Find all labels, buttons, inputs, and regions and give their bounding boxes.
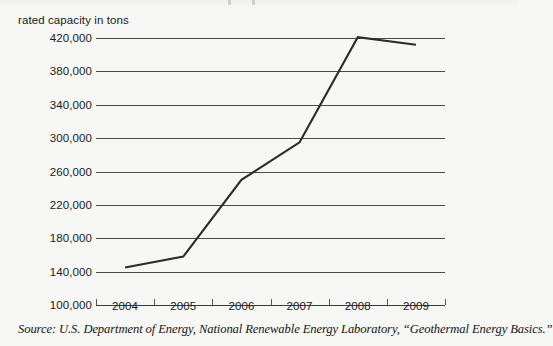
data-series-line (0, 0, 517, 318)
source-caption: Source: U.S. Department of Energy, Natio… (18, 322, 553, 337)
plot-area: 420,000380,000340,000300,000260,000220,0… (0, 0, 517, 318)
